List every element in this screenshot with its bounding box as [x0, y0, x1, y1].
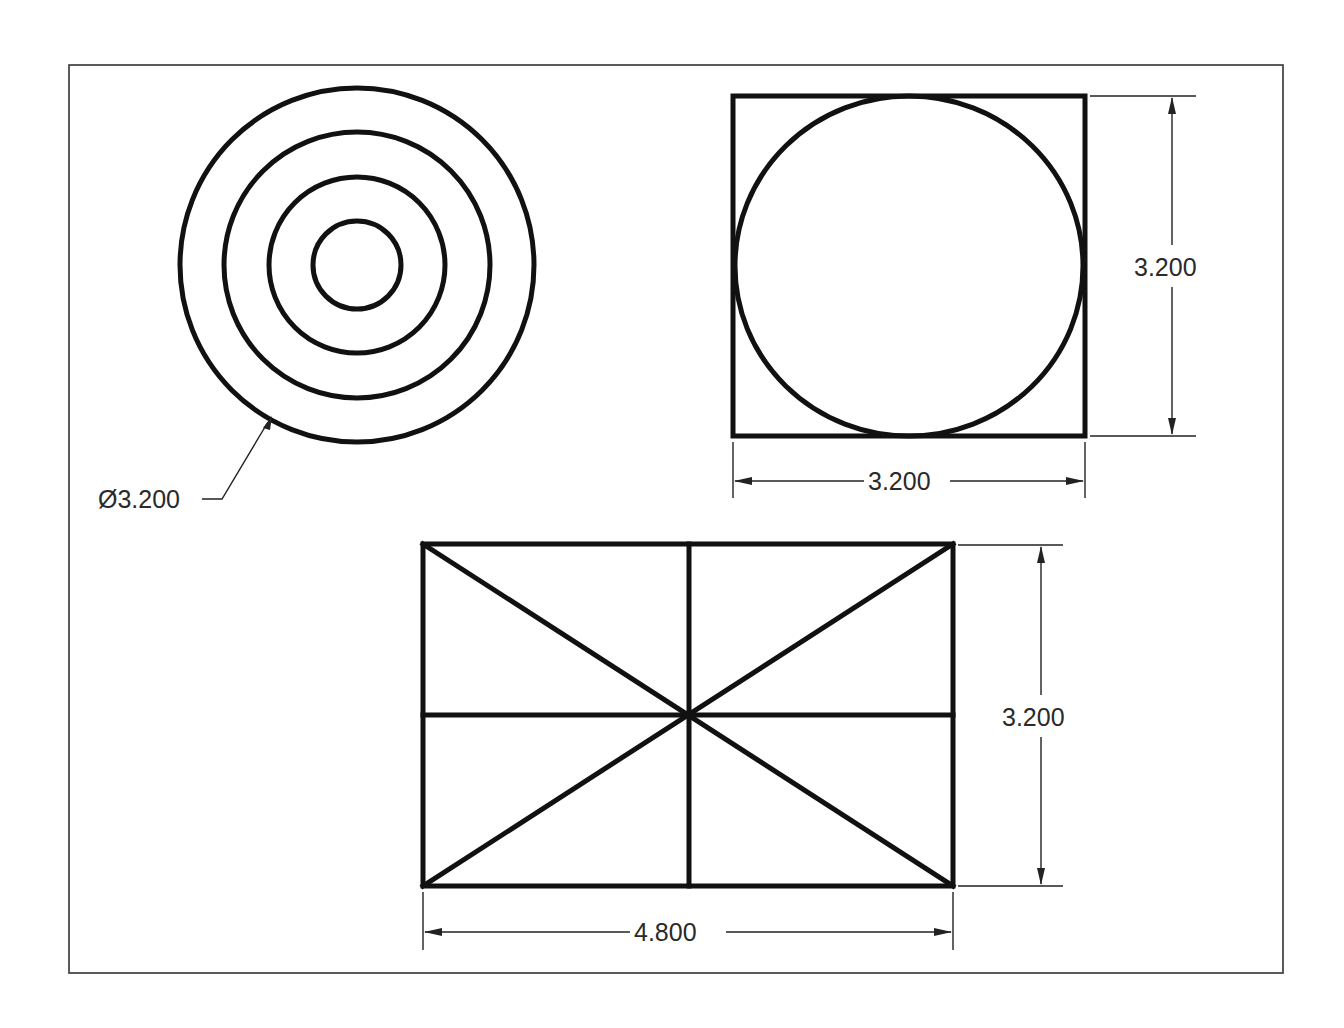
arrowhead-down-icon — [1168, 418, 1176, 435]
leader-line — [202, 422, 268, 499]
rectangle-height-dimension: 3.200 — [958, 545, 1065, 886]
arrowhead-left-icon — [734, 477, 752, 485]
technical-drawing: Ø3.200 3.200 3.200 — [0, 0, 1344, 1028]
outer-circle — [180, 88, 534, 442]
concentric-circles-view: Ø3.200 — [98, 88, 534, 513]
diameter-dimension: Ø3.200 — [98, 416, 272, 513]
arrowhead-down-icon — [1037, 868, 1045, 885]
square-width-dimension: 3.200 — [733, 442, 1085, 498]
inner-circle — [313, 221, 401, 309]
rectangle-width-dimension: 4.800 — [423, 892, 953, 950]
rectangle-width-label: 4.800 — [634, 918, 697, 946]
arrowhead-right-icon — [1066, 477, 1084, 485]
square-height-dimension: 3.200 — [1090, 96, 1197, 436]
diameter-label: Ø3.200 — [98, 485, 180, 513]
sheet-border — [69, 65, 1283, 973]
square-width-label: 3.200 — [868, 467, 931, 495]
square-height-label: 3.200 — [1134, 253, 1197, 281]
arrowhead-left-icon — [424, 928, 442, 936]
rectangle-diagonals-view: 3.200 4.800 — [423, 544, 1065, 950]
second-circle — [224, 132, 490, 398]
arrowhead-up-icon — [1037, 546, 1045, 563]
third-circle — [269, 177, 445, 353]
square-circle-view: 3.200 3.200 — [733, 96, 1197, 498]
arrowhead-up-icon — [1168, 97, 1176, 114]
rectangle-height-label: 3.200 — [1002, 703, 1065, 731]
inscribed-circle — [735, 96, 1083, 436]
arrowhead-right-icon — [934, 928, 952, 936]
